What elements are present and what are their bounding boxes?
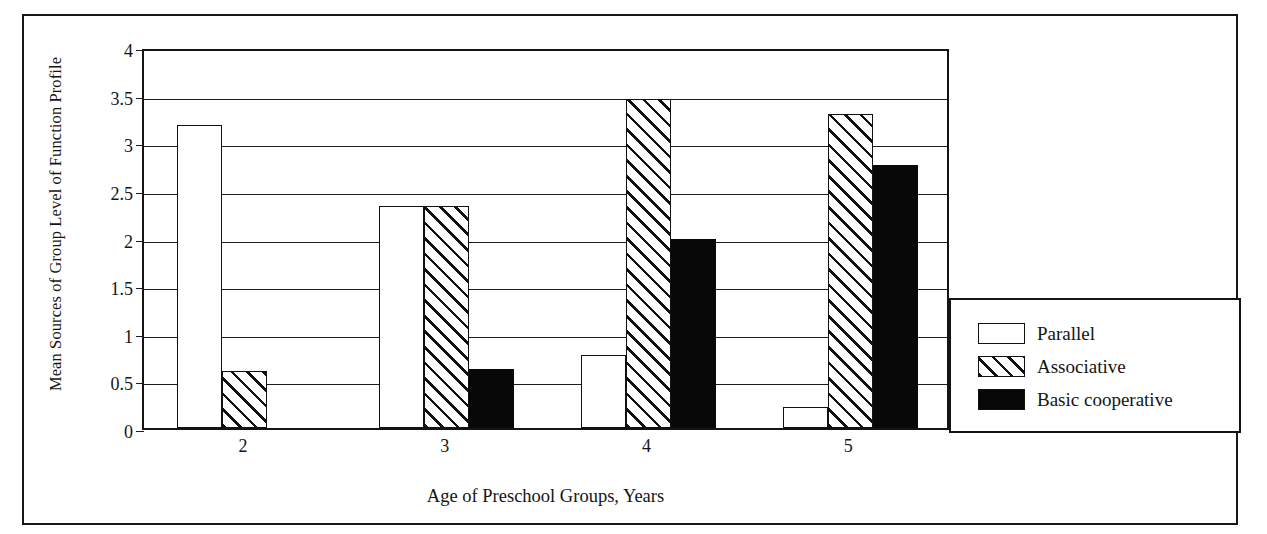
y-tick-label: 2 [124,231,133,252]
y-tick-mark [136,241,144,242]
bar-basic-cooperative-4 [671,239,716,428]
y-tick-label: 4 [124,41,133,62]
bar-group [346,51,548,428]
legend-item[interactable]: Parallel [978,318,1239,349]
bar-associative-3 [424,206,469,428]
chart-legend: ParallelAssociativeBasic cooperative [949,298,1241,433]
bar-basic-cooperative-5 [873,165,918,428]
y-tick-label: 3 [124,136,133,157]
bar-group [548,51,750,428]
bar-associative-4 [626,99,671,428]
legend-swatch-parallel [978,323,1025,344]
plot-inner: 00.511.522.533.54 [144,51,947,428]
y-tick-label: 0 [124,422,133,443]
y-tick-label: 0.5 [111,374,134,395]
legend-swatch-basic-cooperative [978,389,1025,410]
legend-item[interactable]: Basic cooperative [978,384,1239,415]
bar-parallel-5 [783,407,828,428]
bar-parallel-3 [379,206,424,428]
x-axis-title: Age of Preschool Groups, Years [142,486,949,507]
y-tick-label: 1.5 [111,279,134,300]
y-tick-label: 2.5 [111,183,134,204]
y-tick-mark [136,98,144,99]
figure-frame: Mean Sources of Group Level of Function … [22,14,1238,525]
y-tick-mark [136,145,144,146]
bar-basic-cooperative-3 [469,369,514,428]
x-tick-label: 4 [642,436,651,457]
legend-label: Associative [1037,357,1126,376]
y-tick-label: 3.5 [111,88,134,109]
legend-label: Parallel [1037,324,1095,343]
x-tick-label: 5 [844,436,853,457]
bar-group [749,51,951,428]
bar-parallel-4 [581,355,626,428]
bar-group [144,51,346,428]
bar-associative-5 [828,114,873,428]
y-axis-title: Mean Sources of Group Level of Function … [46,24,66,424]
y-tick-mark [136,383,144,384]
legend-item[interactable]: Associative [978,351,1239,382]
plot-area: 00.511.522.533.54 [142,49,949,430]
y-tick-mark [136,50,144,51]
y-tick-mark [136,288,144,289]
y-tick-mark [136,193,144,194]
y-tick-label: 1 [124,326,133,347]
x-tick-label: 2 [238,436,247,457]
x-tick-label: 3 [440,436,449,457]
y-tick-mark [136,336,144,337]
legend-swatch-associative [978,356,1025,377]
y-tick-mark [136,431,144,432]
bar-associative-2 [222,371,267,428]
legend-label: Basic cooperative [1037,390,1173,409]
bar-parallel-2 [177,125,222,428]
